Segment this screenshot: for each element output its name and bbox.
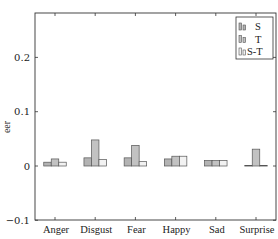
bar-s-disgust bbox=[84, 158, 92, 166]
bar-s-surprise bbox=[245, 165, 253, 166]
x-category-label: Happy bbox=[163, 224, 192, 235]
bar-t-happy bbox=[172, 156, 180, 166]
bar-s-happy bbox=[164, 159, 172, 166]
bar-t-surprise bbox=[252, 149, 260, 166]
y-axis-label: eer bbox=[1, 120, 12, 133]
x-category-label: Surprise bbox=[240, 224, 275, 235]
bars-group bbox=[44, 140, 268, 166]
legend-swatch-icon bbox=[239, 36, 242, 43]
bar-t-disgust bbox=[91, 140, 99, 166]
legend-label: S-T bbox=[247, 46, 263, 57]
x-category-label: Anger bbox=[43, 224, 70, 235]
x-category-label: Fear bbox=[127, 224, 146, 235]
legend-label: T bbox=[255, 34, 262, 45]
y-axis: −0.100.10.2 bbox=[6, 52, 276, 226]
bar-t-fear bbox=[132, 145, 140, 166]
legend-swatch-icon bbox=[239, 48, 242, 55]
legend-swatch-icon bbox=[243, 38, 246, 43]
bar-t-anger bbox=[51, 159, 59, 166]
legend-label: S bbox=[255, 21, 261, 32]
bar-s-anger bbox=[44, 162, 52, 166]
y-tick-label: 0 bbox=[24, 161, 30, 172]
x-category-label: Disgust bbox=[80, 224, 112, 235]
y-tick-label: 0.2 bbox=[14, 52, 30, 63]
bar-s-t-surprise bbox=[260, 165, 268, 166]
bar-s-t-happy bbox=[179, 156, 187, 166]
x-category-label: Sad bbox=[209, 224, 226, 235]
bar-chart: −0.100.10.2 AngerDisgustFearHappySadSurp… bbox=[0, 0, 278, 239]
bar-s-fear bbox=[124, 158, 131, 166]
bar-s-t-disgust bbox=[99, 159, 107, 166]
y-tick-label: 0.1 bbox=[14, 106, 30, 117]
y-tick-label: −0.1 bbox=[6, 215, 30, 226]
bar-t-sad bbox=[212, 161, 220, 166]
bar-s-sad bbox=[205, 161, 213, 166]
legend: STS-T bbox=[236, 17, 273, 59]
bar-s-t-sad bbox=[220, 161, 228, 166]
legend-swatch-icon bbox=[243, 25, 246, 30]
legend-swatch-icon bbox=[243, 50, 246, 55]
bar-s-t-anger bbox=[59, 162, 67, 166]
legend-swatch-icon bbox=[239, 23, 242, 30]
bar-s-t-fear bbox=[139, 162, 147, 166]
